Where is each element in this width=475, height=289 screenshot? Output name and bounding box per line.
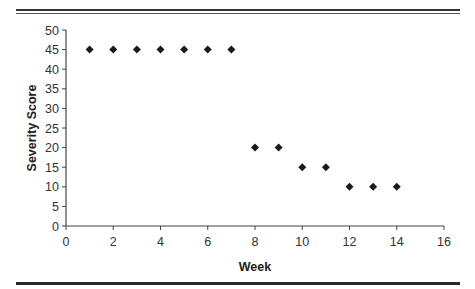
y-tick-label: 30 bbox=[45, 102, 59, 116]
diamond-marker bbox=[133, 46, 141, 54]
y-tick-label: 35 bbox=[45, 82, 59, 96]
y-tick-label: 5 bbox=[52, 200, 59, 214]
scatter-chart: 051015202530354045500246810121416 Week S… bbox=[0, 0, 475, 289]
x-tick-label: 12 bbox=[343, 235, 357, 249]
y-tick-label: 20 bbox=[45, 141, 59, 155]
diamond-marker bbox=[346, 183, 354, 191]
y-tick-label: 0 bbox=[52, 220, 59, 234]
diamond-marker bbox=[227, 46, 235, 54]
diamond-marker bbox=[109, 46, 117, 54]
y-tick-label: 45 bbox=[45, 43, 59, 57]
diamond-marker bbox=[393, 183, 401, 191]
y-tick-label: 15 bbox=[45, 161, 59, 175]
x-tick-label: 10 bbox=[295, 235, 309, 249]
diamond-marker bbox=[369, 183, 377, 191]
x-tick-label: 16 bbox=[437, 235, 451, 249]
y-axis-title: Severity Score bbox=[25, 85, 39, 172]
x-axis-title: Week bbox=[239, 260, 271, 274]
diamond-marker bbox=[180, 46, 188, 54]
x-tick-label: 6 bbox=[204, 235, 211, 249]
diamond-marker bbox=[275, 144, 283, 152]
x-tick-label: 14 bbox=[390, 235, 404, 249]
x-tick-label: 2 bbox=[110, 235, 117, 249]
x-tick-label: 0 bbox=[63, 235, 70, 249]
y-tick-label: 25 bbox=[45, 122, 59, 136]
x-tick-label: 4 bbox=[157, 235, 164, 249]
y-tick-label: 10 bbox=[45, 180, 59, 194]
diamond-marker bbox=[204, 46, 212, 54]
y-tick-label: 40 bbox=[45, 63, 59, 77]
axes: 051015202530354045500246810121416 bbox=[45, 24, 451, 250]
diamond-marker bbox=[86, 46, 94, 54]
diamond-marker bbox=[157, 46, 165, 54]
diamond-marker bbox=[322, 163, 330, 171]
y-tick-label: 50 bbox=[45, 24, 59, 38]
data-points bbox=[86, 46, 401, 191]
x-tick-label: 8 bbox=[252, 235, 259, 249]
diamond-marker bbox=[298, 163, 306, 171]
diamond-marker bbox=[251, 144, 259, 152]
